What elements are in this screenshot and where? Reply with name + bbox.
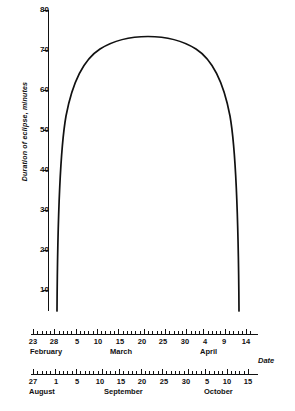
axis-tick <box>182 331 183 334</box>
y-tick-mark-70 <box>43 50 49 51</box>
axis-tick <box>132 371 133 374</box>
y-tick-30: 30 <box>0 210 49 211</box>
secondary-tick-label-9: 10 <box>218 378 236 386</box>
axis-tick <box>179 371 180 374</box>
primary-tick-label-3: 10 <box>89 338 107 346</box>
primary-axis-rule <box>31 334 258 335</box>
axis-tick <box>123 371 124 374</box>
y-tick-mark-30 <box>43 210 49 211</box>
axis-tick <box>246 329 247 334</box>
primary-tick-label-9: 9 <box>215 338 233 346</box>
axis-tick <box>55 369 56 374</box>
axis-tick <box>188 369 189 374</box>
secondary-axis-rule <box>31 374 258 375</box>
axis-tick <box>115 371 116 374</box>
axis-tick <box>229 331 230 334</box>
axis-tick <box>145 371 146 374</box>
primary-tick-label-1: 28 <box>45 338 63 346</box>
y-tick-10: 10 <box>0 290 49 291</box>
axis-tick <box>196 371 197 374</box>
axis-tick <box>242 331 243 334</box>
axis-tick <box>98 371 99 374</box>
axis-tick <box>227 369 228 374</box>
primary-tick-label-10: 14 <box>237 338 255 346</box>
primary-tick-label-2: 5 <box>68 338 86 346</box>
axis-tick <box>216 331 217 334</box>
axis-tick <box>76 369 77 374</box>
x-axis-title: Date <box>258 357 274 365</box>
axis-tick <box>186 329 187 334</box>
axis-tick <box>67 331 68 334</box>
axis-tick <box>174 331 175 334</box>
secondary-tick-label-0: 27 <box>24 378 42 386</box>
axis-tick <box>37 371 38 374</box>
axis-tick <box>46 371 47 374</box>
y-tick-20: 20 <box>0 250 49 251</box>
y-tick-mark-50 <box>43 130 49 131</box>
axis-tick <box>184 371 185 374</box>
axis-tick <box>59 371 60 374</box>
axis-tick <box>131 331 132 334</box>
axis-tick <box>97 329 98 334</box>
y-tick-60: 60 <box>0 90 49 91</box>
y-tick-mark-40 <box>43 170 49 171</box>
axis-tick <box>119 369 120 374</box>
axis-tick <box>209 371 210 374</box>
axis-tick <box>59 331 60 334</box>
axis-tick <box>238 331 239 334</box>
axis-tick <box>42 331 43 334</box>
axis-tick <box>105 331 106 334</box>
axis-tick <box>175 371 176 374</box>
axis-tick <box>33 369 34 374</box>
secondary-tick-label-8: 5 <box>198 378 216 386</box>
axis-tick <box>201 371 202 374</box>
axis-tick <box>165 329 166 334</box>
axis-tick <box>93 371 94 374</box>
axis-tick <box>161 331 162 334</box>
axis-tick <box>140 331 141 334</box>
axis-tick <box>244 371 245 374</box>
primary-month-february: February <box>30 348 62 356</box>
axis-tick <box>135 331 136 334</box>
axis-tick <box>220 331 221 334</box>
y-tick-mark-80 <box>43 10 49 11</box>
secondary-month-august: August <box>29 388 55 396</box>
secondary-tick-label-6: 25 <box>155 378 173 386</box>
y-tick-mark-60 <box>43 90 49 91</box>
secondary-tick-label-5: 20 <box>133 378 151 386</box>
axis-tick <box>225 329 226 334</box>
axis-tick <box>127 331 128 334</box>
secondary-tick-label-7: 30 <box>177 378 195 386</box>
secondary-tick-label-4: 15 <box>112 378 130 386</box>
axis-tick <box>169 331 170 334</box>
axis-tick <box>144 329 145 334</box>
primary-month-march: March <box>110 348 132 356</box>
axis-tick <box>88 331 89 334</box>
secondary-tick-label-10: 15 <box>239 378 257 386</box>
secondary-tick-label-2: 5 <box>68 378 86 386</box>
axis-tick <box>110 371 111 374</box>
axis-tick <box>93 331 94 334</box>
axis-tick <box>123 331 124 334</box>
axis-tick <box>171 371 172 374</box>
axis-tick <box>89 371 90 374</box>
y-tick-40: 40 <box>0 170 49 171</box>
axis-tick <box>42 371 43 374</box>
axis-tick <box>50 331 51 334</box>
axis-tick <box>46 331 47 334</box>
axis-tick <box>33 329 34 334</box>
axis-tick <box>178 331 179 334</box>
primary-tick-label-4: 15 <box>111 338 129 346</box>
axis-tick <box>152 331 153 334</box>
axis-tick <box>54 329 55 334</box>
axis-tick <box>136 371 137 374</box>
axis-tick <box>158 371 159 374</box>
axis-tick <box>106 371 107 374</box>
axis-tick <box>208 331 209 334</box>
y-tick-50: 50 <box>0 130 49 131</box>
axis-tick <box>248 369 249 374</box>
axis-tick <box>231 371 232 374</box>
axis-tick <box>63 331 64 334</box>
eclipse-duration-chart: Duration of eclipse, minutes 80 70 60 50… <box>0 0 295 411</box>
axis-tick <box>250 331 251 334</box>
